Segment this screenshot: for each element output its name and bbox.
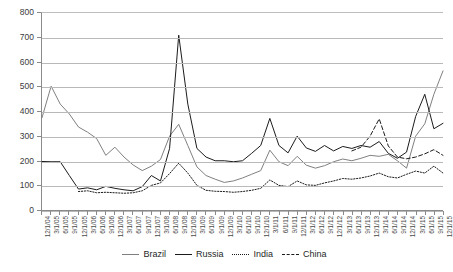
x-tick-mark: [178, 211, 179, 215]
x-tick-label: 9/1/10: [254, 216, 261, 234]
y-tick-label: 800: [20, 7, 34, 17]
y-tick-label: 500: [20, 81, 34, 91]
x-tick-label: 3/1/11: [272, 216, 279, 233]
x-tick-label: 12/1/10: [263, 216, 270, 237]
y-tick-label: 700: [20, 32, 34, 42]
x-tick-label: 3/1/10: [236, 216, 243, 234]
x-tick-label: 3/1/07: [126, 216, 133, 234]
y-tick-label: 300: [20, 131, 34, 141]
x-tick-label: 9/1/09: [218, 216, 225, 234]
x-tick-mark: [87, 211, 88, 215]
x-tick-mark: [443, 211, 444, 215]
x-tick-label: 6/1/06: [99, 216, 106, 234]
x-tick-label: 6/1/07: [135, 216, 142, 234]
x-tick-mark: [205, 211, 206, 215]
x-tick-mark: [215, 211, 216, 215]
gridline: [42, 162, 443, 163]
x-tick-label: 9/1/13: [364, 216, 371, 234]
x-tick-mark: [406, 211, 407, 215]
gridline: [42, 137, 443, 138]
x-tick-label: 6/1/12: [318, 216, 325, 234]
y-tick-label: 600: [20, 57, 34, 67]
plot-area: [41, 12, 443, 210]
legend-label: Brazil: [143, 250, 166, 259]
x-tick-mark: [388, 211, 389, 215]
y-tick-label: 100: [20, 180, 34, 190]
x-tick-mark: [123, 211, 124, 215]
x-tick-label: 12/1/09: [227, 216, 234, 237]
legend-item-russia[interactable]: Russia: [175, 250, 224, 259]
y-axis: 8007006005004003002001000: [0, 12, 38, 210]
x-tick-mark: [251, 211, 252, 215]
x-tick-mark: [361, 211, 362, 215]
x-tick-mark: [114, 211, 115, 215]
x-tick-mark: [269, 211, 270, 215]
x-tick-mark: [160, 211, 161, 215]
x-tick-label: 9/1/12: [327, 216, 334, 234]
legend-label: Russia: [196, 250, 224, 259]
y-tick-label: 400: [20, 106, 34, 116]
x-tick-mark: [416, 211, 417, 215]
series-line-china: [352, 119, 443, 159]
legend-swatch-china: [282, 254, 299, 255]
x-tick-label: 3/1/13: [346, 216, 353, 234]
x-tick-label: 12/1/06: [117, 216, 124, 237]
x-tick-mark: [78, 211, 79, 215]
x-tick-label: 9/1/11: [291, 216, 298, 233]
x-tick-label: 9/1/06: [108, 216, 115, 234]
x-tick-label: 9/1/07: [145, 216, 152, 234]
legend-item-india[interactable]: India: [232, 250, 273, 259]
x-tick-label: 12/1/08: [190, 216, 197, 237]
x-tick-mark: [41, 211, 42, 215]
x-tick-mark: [50, 211, 51, 215]
legend-item-brazil[interactable]: Brazil: [122, 250, 166, 259]
x-tick-mark: [224, 211, 225, 215]
x-tick-mark: [169, 211, 170, 215]
legend-label: China: [303, 250, 327, 259]
x-tick-mark: [105, 211, 106, 215]
y-tick-label: 200: [20, 156, 34, 166]
x-tick-mark: [288, 211, 289, 215]
legend-item-china[interactable]: China: [282, 250, 327, 259]
x-tick-label: 9/1/14: [400, 216, 407, 234]
x-tick-mark: [233, 211, 234, 215]
x-tick-label: 12/1/04: [44, 216, 51, 237]
x-tick-mark: [279, 211, 280, 215]
x-tick-mark: [297, 211, 298, 215]
x-tick-mark: [68, 211, 69, 215]
gridline: [42, 112, 443, 113]
x-tick-mark: [425, 211, 426, 215]
x-tick-label: 6/1/09: [208, 216, 215, 234]
x-tick-mark: [187, 211, 188, 215]
x-tick-mark: [132, 211, 133, 215]
x-tick-label: 9/1/15: [437, 216, 444, 234]
legend-swatch-brazil: [122, 254, 139, 255]
x-tick-label: 3/1/12: [309, 216, 316, 234]
x-tick-mark: [324, 211, 325, 215]
x-tick-label: 6/1/11: [282, 216, 289, 233]
x-tick-mark: [315, 211, 316, 215]
x-tick-mark: [196, 211, 197, 215]
x-tick-mark: [142, 211, 143, 215]
x-axis: [41, 210, 443, 215]
chart-legend: BrazilRussiaIndiaChina: [0, 250, 449, 259]
x-tick-mark: [370, 211, 371, 215]
x-tick-label: 3/1/09: [199, 216, 206, 234]
x-tick-mark: [151, 211, 152, 215]
legend-swatch-india: [232, 254, 249, 255]
gridline: [42, 186, 443, 187]
x-tick-label: 6/1/13: [355, 216, 362, 234]
x-tick-label: 6/1/05: [62, 216, 69, 234]
x-tick-label: 9/1/08: [181, 216, 188, 234]
x-tick-label: 6/1/14: [391, 216, 398, 234]
x-tick-label: 9/1/05: [71, 216, 78, 234]
x-tick-label: 3/1/15: [419, 216, 426, 234]
x-tick-mark: [242, 211, 243, 215]
x-tick-mark: [434, 211, 435, 215]
x-tick-mark: [96, 211, 97, 215]
x-tick-label: 12/1/15: [446, 216, 453, 237]
x-tick-label: 12/1/14: [409, 216, 416, 237]
x-tick-mark: [343, 211, 344, 215]
legend-swatch-russia: [175, 254, 192, 255]
